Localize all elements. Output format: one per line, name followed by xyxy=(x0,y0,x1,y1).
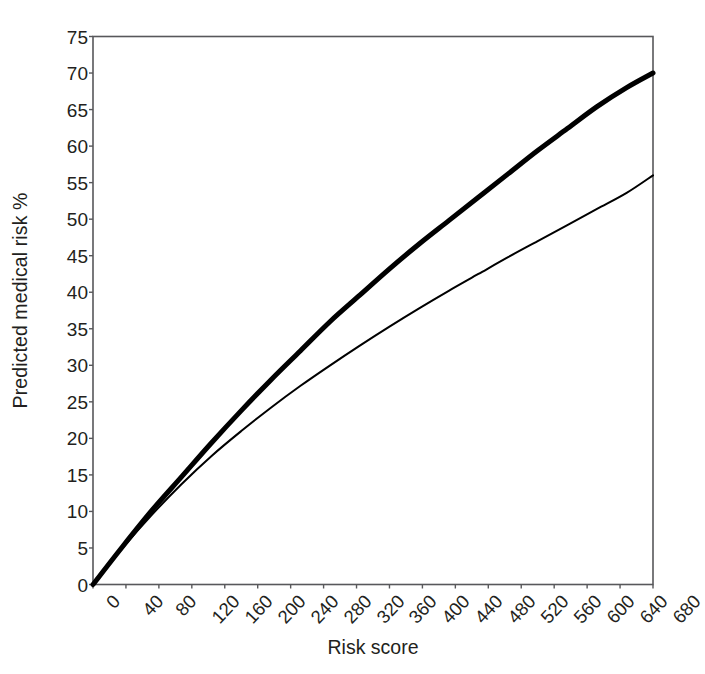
axis-tick-marks xyxy=(89,37,653,589)
data-curve-thin xyxy=(93,175,653,584)
data-curves xyxy=(93,73,653,584)
plot-frame xyxy=(93,37,653,585)
data-curve-thick xyxy=(93,73,653,584)
